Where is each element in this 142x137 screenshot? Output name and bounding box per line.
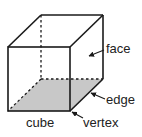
face-arrow-icon [89,50,104,56]
label-vertex: vertex [83,115,119,130]
label-face: face [106,41,131,56]
cube-diagram: face edge vertex cube [0,0,142,137]
shaded-bottom-face [8,79,103,111]
label-cube: cube [26,115,54,130]
edge-arrow-icon [91,93,105,99]
label-edge: edge [106,92,135,107]
vertex-arrow-icon [72,112,83,118]
